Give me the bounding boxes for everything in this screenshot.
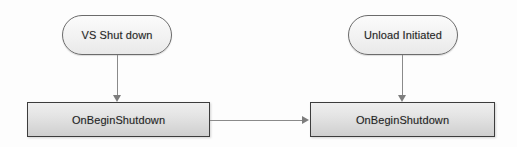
connector-line-left-box-to-right-box	[210, 120, 303, 121]
process-node-right-onbeginshutdown[interactable]: OnBeginShutdown	[310, 102, 495, 137]
arrowhead-down-icon	[113, 95, 121, 102]
arrowhead-right-icon	[302, 116, 309, 124]
event-node-label: VS Shut down	[82, 29, 153, 41]
process-node-label: OnBeginShutdown	[72, 114, 165, 126]
diagram-canvas: VS Shut down Unload Initiated OnBeginShu…	[0, 0, 517, 147]
connector-line-vs-shutdown-to-left-box	[117, 55, 118, 96]
process-node-label: OnBeginShutdown	[356, 114, 449, 126]
event-node-vs-shut-down[interactable]: VS Shut down	[62, 15, 172, 55]
arrowhead-down-icon	[398, 95, 406, 102]
process-node-left-onbeginshutdown[interactable]: OnBeginShutdown	[27, 102, 210, 137]
connector-line-unload-initiated-to-right-box	[402, 55, 403, 96]
event-node-unload-initiated[interactable]: Unload Initiated	[348, 15, 458, 55]
event-node-label: Unload Initiated	[364, 29, 442, 41]
